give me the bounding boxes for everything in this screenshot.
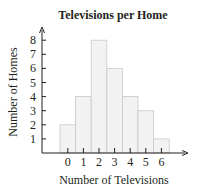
x-tick-label: 5 — [143, 155, 149, 169]
histogram-bar — [122, 97, 138, 153]
histogram-bar — [138, 111, 154, 153]
y-tick-label: 8 — [30, 33, 36, 47]
y-tick-label: 4 — [30, 90, 36, 104]
y-tick-label: 3 — [30, 104, 36, 118]
x-tick-label: 2 — [96, 155, 102, 169]
y-tick-label: 1 — [30, 132, 36, 146]
x-tick-label: 4 — [127, 155, 133, 169]
histogram-plot: 123456780123456 — [0, 0, 199, 191]
histogram-bar — [107, 68, 123, 153]
x-tick-label: 1 — [80, 155, 86, 169]
x-tick-label: 3 — [112, 155, 118, 169]
histogram-bar — [91, 40, 107, 153]
x-tick-label: 6 — [158, 155, 164, 169]
y-tick-label: 2 — [30, 118, 36, 132]
y-tick-label: 7 — [30, 47, 36, 61]
x-tick-label: 0 — [65, 155, 71, 169]
y-tick-label: 6 — [30, 61, 36, 75]
y-tick-label: 5 — [30, 76, 36, 90]
histogram-bar — [76, 97, 92, 153]
